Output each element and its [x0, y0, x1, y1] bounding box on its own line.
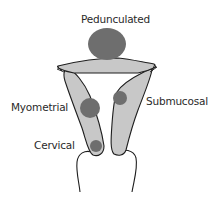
label-myometrial: Myometrial: [11, 101, 68, 113]
label-pedunculated: Pedunculated: [81, 13, 150, 25]
label-cervical: Cervical: [34, 139, 75, 151]
pedunculated-fibroid: [88, 28, 126, 60]
myometrial-fibroid: [80, 98, 100, 118]
uterine-fundus: [58, 58, 156, 73]
fibroid-diagram: Pedunculated Myometrial Submucosal Cervi…: [0, 0, 213, 205]
cervix-outline-right: [114, 150, 137, 192]
cervix-outline: [77, 151, 92, 192]
cervical-fibroid: [90, 140, 102, 152]
label-submucosal: Submucosal: [146, 95, 208, 107]
submucosal-fibroid: [113, 91, 127, 105]
right-uterine-wall: [111, 69, 152, 155]
